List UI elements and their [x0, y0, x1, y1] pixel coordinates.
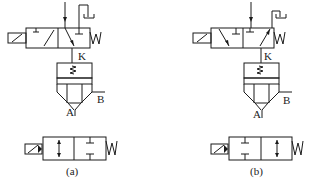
- supply-arrow-icon: [249, 2, 253, 28]
- diagram-b: [193, 2, 303, 160]
- label-k-a: K: [78, 51, 86, 62]
- label-b-a: B: [97, 94, 104, 105]
- supply-arrow-icon: [63, 2, 67, 28]
- solenoid-icon: [193, 33, 211, 43]
- equivalent-valve-b: [211, 137, 303, 160]
- diagram-a: [8, 2, 117, 160]
- exhaust-icon: [79, 5, 94, 28]
- spring-icon: [90, 32, 101, 44]
- caption-b: (b): [250, 166, 263, 177]
- caption-a: (a): [66, 166, 78, 177]
- label-a-b: A: [253, 109, 261, 120]
- equivalent-valve-a: [25, 137, 117, 160]
- pilot-valve-b: [211, 28, 274, 48]
- label-k-b: K: [264, 51, 272, 62]
- diaphragm-valve-a: [57, 63, 105, 116]
- label-b-b: B: [283, 95, 290, 106]
- diaphragm-valve-b: [244, 63, 292, 118]
- spring-icon: [274, 32, 285, 44]
- pneumatic-diagram-canvas: [0, 0, 312, 185]
- label-a-a: A: [66, 107, 74, 118]
- pilot-valve-a: [26, 28, 90, 48]
- solenoid-icon: [8, 33, 26, 43]
- exhaust-icon: [272, 11, 286, 28]
